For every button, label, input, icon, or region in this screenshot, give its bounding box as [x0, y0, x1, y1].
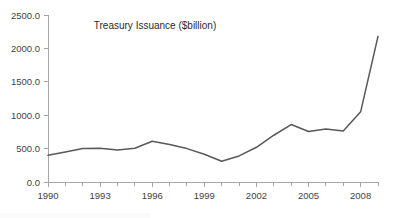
x-tick-label: 1999	[194, 190, 215, 201]
bottom-edge-artifact	[0, 213, 150, 218]
y-tick-label: 500.0	[16, 143, 40, 154]
y-tick-label: 2000.0	[11, 43, 40, 54]
x-tick-label: 2005	[298, 190, 319, 201]
line-chart: 0.0500.01000.01500.02000.02500.0 1990199…	[0, 0, 393, 218]
chart-title: Treasury Issuance ($billion)	[94, 20, 216, 31]
x-tick-label: 1993	[90, 190, 111, 201]
y-tick-label: 1500.0	[11, 76, 40, 87]
x-tick-label: 2008	[350, 190, 371, 201]
y-tick-label: 0.0	[27, 177, 40, 188]
x-tick-label: 1996	[142, 190, 163, 201]
chart-container: 0.0500.01000.01500.02000.02500.0 1990199…	[0, 0, 393, 218]
y-tick-label: 1000.0	[11, 110, 40, 121]
x-tick-label: 1990	[37, 190, 58, 201]
chart-background	[0, 0, 393, 218]
x-tick-label: 2002	[246, 190, 267, 201]
y-tick-label: 2500.0	[11, 10, 40, 21]
